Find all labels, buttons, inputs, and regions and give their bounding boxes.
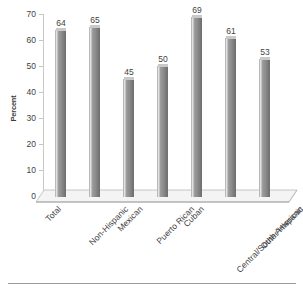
y-tick-label: 30: [27, 114, 36, 123]
x-axis-label-total: Total: [43, 204, 63, 224]
bar-value-label: 61: [214, 27, 248, 36]
table-row[interactable]: [89, 27, 100, 197]
bar-value-label: 45: [112, 68, 146, 77]
bar-top-cap: [124, 77, 134, 80]
table-row[interactable]: [259, 59, 270, 197]
bar-top-cap: [90, 25, 100, 28]
plot-area: 64 65 45 50 69: [44, 14, 294, 197]
y-tick-label: 60: [27, 36, 36, 45]
bar-top-cap: [226, 36, 236, 39]
y-tick-label: 40: [27, 88, 36, 97]
bar-group: 69: [180, 14, 214, 197]
x-axis-label-other-hispanic: Other Hispanic: [258, 204, 303, 251]
bar-value-label: 65: [78, 16, 112, 25]
footer-divider: [8, 283, 296, 284]
table-row[interactable]: [123, 79, 134, 197]
bar-value-label: 53: [248, 48, 282, 57]
y-tick-label: 10: [27, 166, 36, 175]
bar-group: 53: [248, 14, 282, 197]
bar-top-cap: [192, 15, 202, 18]
y-tick-label: 50: [27, 62, 36, 71]
table-row[interactable]: [55, 30, 66, 197]
x-axis-categories: Total Non-Hispanic Mexican Puerto Rican …: [44, 200, 303, 296]
bar-value-label: 50: [146, 55, 180, 64]
y-tick-label: 70: [27, 10, 36, 19]
bar-chart: Percent 70 60 50 40 30 20 10 0 64: [0, 0, 303, 298]
bar-top-cap: [158, 64, 168, 67]
bar-top-cap: [56, 28, 66, 31]
bar-group: 61: [214, 14, 248, 197]
y-tick-label: 20: [27, 140, 36, 149]
bar-group: 50: [146, 14, 180, 197]
bar-group: 64: [44, 14, 78, 197]
bar-value-label: 69: [180, 6, 214, 15]
bar-group: 65: [78, 14, 112, 197]
bar-value-label: 64: [44, 19, 78, 28]
table-row[interactable]: [157, 66, 168, 197]
table-row[interactable]: [225, 38, 236, 197]
bar-group: 45: [112, 14, 146, 197]
bar-top-cap: [260, 57, 270, 60]
y-axis-ticks: 70 60 50 40 30 20 10 0: [0, 14, 44, 196]
table-row[interactable]: [191, 17, 202, 197]
